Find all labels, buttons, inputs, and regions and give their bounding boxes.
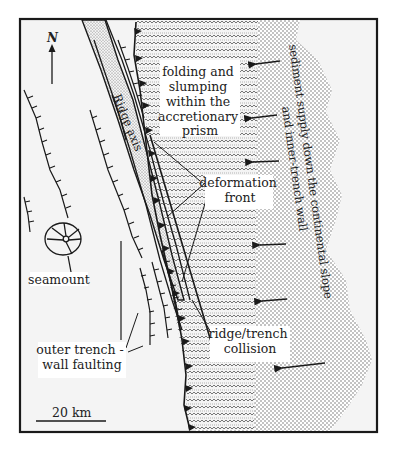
outer-trench-label: outer trench - wall faulting [36,342,128,372]
scale-label: 20 km [52,405,91,420]
seamount-label: seamount [28,272,90,287]
ridge-trench-collision-diagram: N folding and slumping within the accret… [0,0,394,449]
north-label: N [46,31,59,45]
